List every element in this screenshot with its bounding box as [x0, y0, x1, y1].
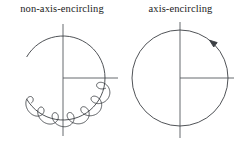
- figure-container: non-axis-encircling axis-encircling: [0, 0, 237, 141]
- panel-title-non-axis-encircling: non-axis-encircling: [0, 2, 124, 15]
- plot-non-axis-encircling: [0, 16, 124, 141]
- diagram-non-axis-encircling: [0, 16, 124, 141]
- diagram-axis-encircling: [124, 16, 237, 141]
- panel-title-axis-encircling: axis-encircling: [124, 2, 237, 15]
- plot-axis-encircling: [124, 16, 237, 141]
- panel-axis-encircling: axis-encircling: [124, 0, 237, 141]
- panel-non-axis-encircling: non-axis-encircling: [0, 0, 124, 141]
